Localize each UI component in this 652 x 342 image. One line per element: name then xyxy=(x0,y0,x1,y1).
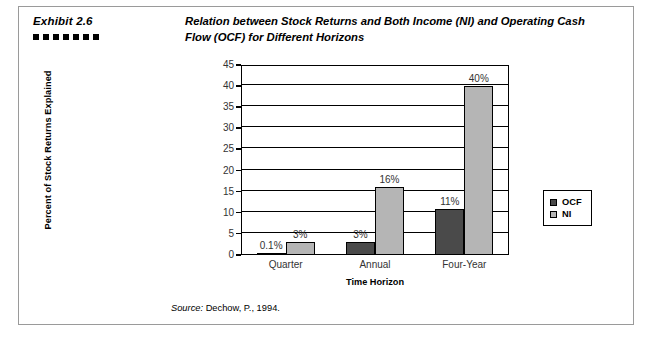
y-axis-tick-label: 0 xyxy=(228,249,234,261)
y-axis-tick: 0 xyxy=(205,249,241,261)
x-axis-tick-label: Quarter xyxy=(241,259,330,270)
y-axis-tick-label: 30 xyxy=(223,122,234,134)
y-axis-tick-label: 10 xyxy=(223,207,234,219)
x-axis-tick-label: Four-Year xyxy=(420,259,509,270)
legend-label: NI xyxy=(562,208,571,220)
y-axis-tick-label: 45 xyxy=(223,59,234,71)
exhibit-square-icon xyxy=(83,34,89,40)
exhibit-square-decoration xyxy=(33,34,183,40)
exhibit-square-icon xyxy=(53,34,59,40)
y-axis-title: Percent of Stock Returns Explained xyxy=(43,55,53,245)
exhibit-number-label: Exhibit 2.6 xyxy=(33,15,183,27)
x-axis-title: Time Horizon xyxy=(241,277,509,287)
y-axis-tick-label: 15 xyxy=(223,186,234,198)
y-axis-tick-label: 25 xyxy=(223,143,234,155)
chart-legend: OCFNI xyxy=(543,190,592,226)
y-axis-tick: 20 xyxy=(205,165,241,177)
bar-ni-four-year xyxy=(464,86,493,255)
exhibit-square-icon xyxy=(43,34,49,40)
legend-item-ocf: OCF xyxy=(550,196,582,208)
y-axis-tick-label: 40 xyxy=(223,80,234,92)
y-axis-tick: 10 xyxy=(205,207,241,219)
legend-item-ni: NI xyxy=(550,208,582,220)
exhibit-square-icon xyxy=(93,34,99,40)
y-axis-tick: 15 xyxy=(205,186,241,198)
y-axis-tick: 45 xyxy=(205,59,241,71)
x-axis-ticks: QuarterAnnualFour-Year xyxy=(241,259,509,275)
y-axis-tick-label: 5 xyxy=(228,228,234,240)
y-axis-ticks: 051015202530354045 xyxy=(205,65,241,255)
legend-swatch-icon xyxy=(550,199,557,206)
bar-group: 11%40% xyxy=(241,65,509,255)
y-axis-tick-label: 35 xyxy=(223,101,234,113)
y-axis-tick: 25 xyxy=(205,143,241,155)
exhibit-square-icon xyxy=(73,34,79,40)
bar-ocf-four-year xyxy=(435,209,464,255)
y-axis-tick: 35 xyxy=(205,101,241,113)
exhibit-square-icon xyxy=(63,34,69,40)
chart-region: Percent of Stock Returns Explained 05101… xyxy=(19,53,633,273)
source-text: Dechow, P., 1994. xyxy=(203,303,280,313)
exhibit-frame: Exhibit 2.6 Relation between Stock Retur… xyxy=(18,6,634,325)
legend-label: OCF xyxy=(562,196,582,208)
y-axis-tick: 40 xyxy=(205,80,241,92)
x-axis-tick-label: Annual xyxy=(330,259,419,270)
y-axis-tick: 5 xyxy=(205,228,241,240)
exhibit-title: Relation between Stock Returns and Both … xyxy=(185,14,610,45)
legend-swatch-icon xyxy=(550,211,557,218)
source-note: Source: Dechow, P., 1994. xyxy=(171,303,280,313)
bars-layer: 0.1%3%3%16%11%40% xyxy=(241,65,509,255)
y-axis-tick: 30 xyxy=(205,122,241,134)
exhibit-label-block: Exhibit 2.6 xyxy=(33,15,183,40)
exhibit-square-icon xyxy=(33,34,39,40)
source-prefix: Source: xyxy=(171,303,203,313)
y-axis-tick-label: 20 xyxy=(223,165,234,177)
bar-value-label: 40% xyxy=(458,73,499,84)
